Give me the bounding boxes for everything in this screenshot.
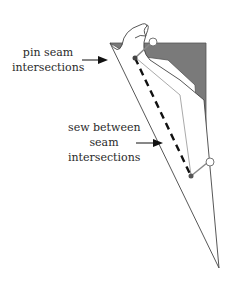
sew-label-line2: seam xyxy=(68,135,140,150)
pin-label-line2: intersections xyxy=(12,60,84,75)
sew-between-label: sew between seam intersections xyxy=(68,120,140,165)
pin-seam-label: pin seam intersections xyxy=(12,45,84,75)
arrow-icon-pin xyxy=(82,56,108,64)
sew-label-line3: intersections xyxy=(68,150,140,165)
pin-label-line1: pin seam xyxy=(12,45,84,60)
sew-label-line1: sew between xyxy=(68,120,140,135)
